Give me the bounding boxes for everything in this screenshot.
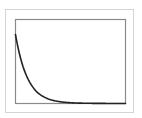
plot-area — [16, 20, 126, 104]
line-chart — [0, 0, 142, 118]
